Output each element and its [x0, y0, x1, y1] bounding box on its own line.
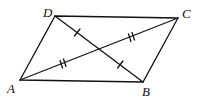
diagonal-db [55, 16, 143, 82]
tick-db-upper [75, 29, 81, 36]
parallelogram-diagram: A B C D [0, 0, 200, 99]
vertex-label-d: D [42, 5, 53, 20]
vertex-label-b: B [142, 84, 150, 99]
diagram-canvas: A B C D [0, 0, 200, 99]
vertex-label-a: A [6, 81, 15, 96]
vertex-label-c: C [182, 6, 191, 21]
double-tick-ac-upper [129, 33, 135, 42]
